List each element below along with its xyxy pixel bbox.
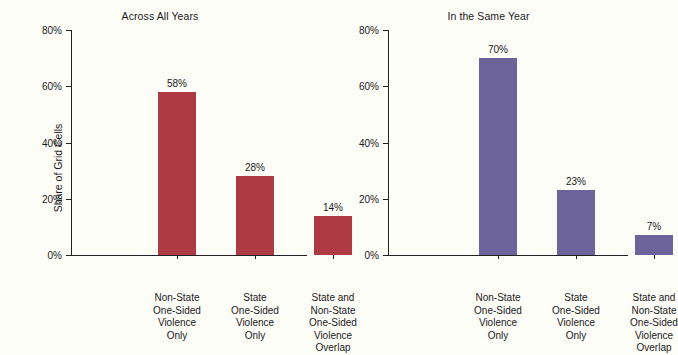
x-axis-tick: [654, 255, 655, 259]
x-axis-label-line: Overlap: [309, 342, 357, 355]
x-axis-label-line: Only: [552, 330, 600, 343]
y-axis-tick-label: 60%: [42, 81, 62, 92]
x-axis-category-label: StateOne-SidedViolenceOnly: [552, 292, 600, 342]
x-axis-label-line: Non-State: [630, 305, 678, 318]
y-axis-tick-label: 0%: [365, 250, 379, 261]
x-axis-tick: [255, 255, 256, 259]
bar: [236, 176, 274, 255]
y-axis-line-left: [71, 30, 72, 255]
chart-title-right: In the Same Year: [330, 10, 647, 22]
bar-value-label: 23%: [566, 176, 586, 187]
y-axis-tick-label: 20%: [359, 193, 379, 204]
x-axis-label-line: Non-State: [153, 292, 201, 305]
x-axis-line-right: [388, 255, 628, 256]
y-axis-tick: [66, 199, 71, 200]
x-axis-label-line: Violence: [231, 317, 279, 330]
plot-area-left: 0%20%40%60%80%58%Non-StateOne-SidedViole…: [71, 30, 307, 255]
x-axis-category-label: StateOne-SidedViolenceOnly: [231, 292, 279, 342]
x-axis-label-line: State: [231, 292, 279, 305]
y-axis-tick: [383, 86, 388, 87]
x-axis-label-line: Only: [474, 330, 522, 343]
chart-panel-in-the-same-year: In the Same Year 0%20%40%60%80%70%Non-St…: [330, 0, 647, 336]
bar-value-label: 28%: [245, 162, 265, 173]
x-axis-tick: [576, 255, 577, 259]
x-axis-category-label: State andNon-StateOne-SidedViolenceOverl…: [630, 292, 678, 355]
bar-value-label: 58%: [167, 78, 187, 89]
x-axis-line-left: [71, 255, 307, 256]
x-axis-category-label: Non-StateOne-SidedViolenceOnly: [474, 292, 522, 342]
x-axis-label-line: Violence: [474, 317, 522, 330]
bar-value-label: 7%: [647, 221, 661, 232]
x-axis-label-line: One-Sided: [231, 305, 279, 318]
x-axis-label-line: State: [552, 292, 600, 305]
x-axis-label-line: Non-State: [474, 292, 522, 305]
y-axis-tick-label: 40%: [42, 137, 62, 148]
y-axis-tick: [383, 143, 388, 144]
y-axis-tick: [383, 255, 388, 256]
x-axis-tick: [498, 255, 499, 259]
bar: [158, 92, 196, 255]
x-axis-label-line: Violence: [630, 330, 678, 343]
chart-title-left: Across All Years: [0, 10, 325, 22]
y-axis-tick: [383, 30, 388, 31]
y-axis-tick: [383, 199, 388, 200]
x-axis-label-line: State and: [630, 292, 678, 305]
bar-value-label: 70%: [488, 44, 508, 55]
x-axis-label-line: Violence: [153, 317, 201, 330]
bar: [557, 190, 595, 255]
x-axis-label-line: One-Sided: [552, 305, 600, 318]
y-axis-tick: [66, 255, 71, 256]
x-axis-tick: [177, 255, 178, 259]
x-axis-label-line: Overlap: [630, 342, 678, 355]
y-axis-tick-label: 60%: [359, 81, 379, 92]
y-axis-tick-label: 80%: [42, 25, 62, 36]
bar: [479, 58, 517, 255]
y-axis-tick-label: 0%: [48, 250, 62, 261]
plot-area-right: 0%20%40%60%80%70%Non-StateOne-SidedViole…: [388, 30, 628, 255]
y-axis-tick: [66, 143, 71, 144]
x-axis-label-line: Only: [153, 330, 201, 343]
chart-panel-across-all-years: Across All Years Share of Grid Cells 0%2…: [0, 0, 330, 336]
x-axis-label-line: One-Sided: [474, 305, 522, 318]
y-axis-tick-label: 20%: [42, 193, 62, 204]
y-axis-tick-label: 80%: [359, 25, 379, 36]
y-axis-tick: [66, 86, 71, 87]
y-axis-tick-label: 40%: [359, 137, 379, 148]
y-axis-tick: [66, 30, 71, 31]
x-axis-label-line: Only: [231, 330, 279, 343]
x-axis-category-label: Non-StateOne-SidedViolenceOnly: [153, 292, 201, 342]
x-axis-label-line: One-Sided: [630, 317, 678, 330]
bar: [635, 235, 673, 255]
y-axis-line-right: [388, 30, 389, 255]
x-axis-label-line: Violence: [552, 317, 600, 330]
x-axis-label-line: One-Sided: [153, 305, 201, 318]
